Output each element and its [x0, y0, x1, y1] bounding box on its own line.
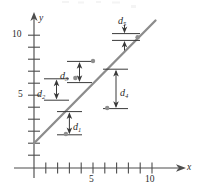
x-tick-label-5: 5: [89, 175, 94, 185]
y-tick-label-10: 10: [12, 30, 22, 40]
residual-label-d3: d3: [60, 66, 68, 83]
y-axis-label: y: [39, 14, 43, 24]
residual-label-d2: d2: [37, 84, 45, 101]
residual-label-d5-subscript: 5: [123, 20, 126, 27]
data-point-5: [135, 35, 139, 39]
residual-label-d4: d4: [120, 83, 128, 100]
residual-label-d5: d5: [118, 11, 126, 28]
x-tick-label-10: 10: [145, 175, 155, 185]
y-tick-label-5: 5: [18, 90, 23, 100]
data-point-4: [105, 106, 109, 110]
residual-label-d2-subscript: 2: [42, 93, 45, 100]
residual-label-d4-subscript: 4: [125, 92, 128, 99]
residual-label-d1-subscript: 1: [78, 126, 81, 133]
data-point-3: [91, 59, 95, 63]
data-point-1: [64, 132, 68, 136]
residual-label-d3-subscript: 3: [65, 75, 68, 82]
x-axis-label: x: [187, 163, 191, 173]
data-point-2: [73, 76, 77, 80]
plot-canvas: [0, 0, 197, 192]
residual-label-d1: d1: [73, 117, 81, 134]
residual-plot-figure: 10 5 5 10 y x d1 d2 d3 d4 d5: [0, 0, 197, 192]
